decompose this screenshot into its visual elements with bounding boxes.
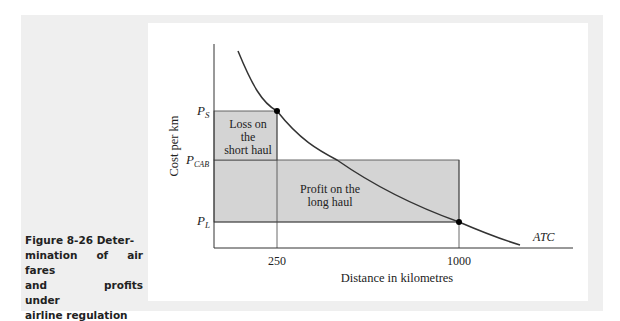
x-axis-label: Distance in kilometres xyxy=(341,271,454,285)
loss-label-3: short haul xyxy=(224,143,272,157)
tick-250: 250 xyxy=(268,254,286,268)
profit-label-2: long haul xyxy=(308,195,354,209)
long-haul-point xyxy=(456,219,462,225)
chart: PS PCAB PL 250 1000 Distance in kilometr… xyxy=(0,0,620,321)
pl-label: PL xyxy=(196,213,210,230)
short-haul-point xyxy=(274,108,280,114)
y-axis-label: Cost per km xyxy=(167,115,181,176)
profit-label-1: Profit on the xyxy=(300,182,360,196)
loss-label-2: the xyxy=(241,130,256,144)
loss-label-1: Loss on xyxy=(229,117,267,131)
pcab-label: PCAB xyxy=(185,152,209,169)
tick-1000: 1000 xyxy=(447,254,471,268)
atc-label: ATC xyxy=(532,230,556,244)
ps-label: PS xyxy=(196,103,210,120)
